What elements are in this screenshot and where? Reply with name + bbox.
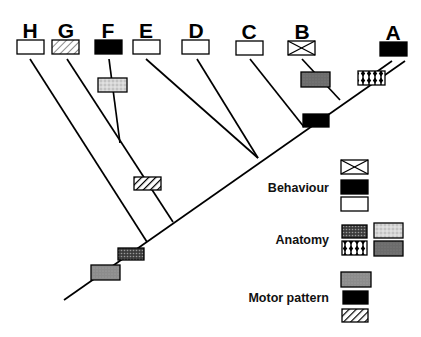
legend-motor-medgray — [341, 272, 371, 287]
legend-label-motor-pattern: Motor pattern — [248, 291, 329, 305]
box-f-black — [95, 40, 122, 54]
box-ab-black — [303, 114, 329, 127]
box-g-hatch — [52, 40, 79, 54]
branch-d — [197, 59, 258, 158]
legend-anatomy-darkgray — [374, 241, 403, 256]
legend-anatomy-lightstipple — [374, 223, 403, 238]
legend-swatches — [341, 160, 403, 322]
legend-behaviour-open — [341, 197, 368, 211]
branch-h — [30, 59, 147, 242]
cladogram-svg — [0, 0, 421, 337]
taxon-label-d: D — [181, 20, 211, 41]
box-b-darkgray — [301, 72, 330, 87]
box-h-open — [17, 40, 44, 54]
box-gf-hatch — [134, 177, 161, 190]
terminal-boxes — [17, 40, 407, 56]
legend-label-anatomy: Anatomy — [276, 233, 329, 247]
branch-e — [146, 59, 258, 158]
box-e-open — [133, 40, 160, 54]
legend-motor-hatch — [342, 309, 368, 322]
taxon-label-a: A — [378, 22, 408, 43]
box-b-cross — [288, 41, 315, 55]
box-d-open — [182, 40, 209, 54]
cladogram-figure: H G F E D C B A Behaviour Anatomy Motor … — [0, 0, 421, 337]
taxon-label-e: E — [131, 20, 161, 41]
box-trunk-medgray — [91, 265, 120, 280]
taxon-label-h: H — [15, 20, 45, 41]
taxon-label-c: C — [234, 21, 264, 42]
legend-behaviour-cross — [341, 160, 368, 174]
box-trunk-darkstipple — [118, 248, 144, 260]
legend-anatomy-diamond — [342, 241, 367, 255]
branch-f — [109, 59, 120, 143]
legend-label-behaviour: Behaviour — [268, 181, 329, 195]
branch-c — [250, 59, 304, 127]
taxon-label-f: F — [93, 20, 123, 41]
box-a-diamond — [358, 71, 385, 85]
box-a-black — [380, 42, 407, 56]
legend-behaviour-black — [341, 180, 368, 194]
branch-boxes — [91, 71, 385, 280]
legend-motor-black — [343, 291, 368, 304]
taxon-label-b: B — [287, 21, 317, 42]
taxon-label-g: G — [51, 20, 81, 41]
box-c-open — [236, 41, 263, 55]
box-f-stipple — [98, 78, 127, 92]
legend-anatomy-darkstipple — [342, 225, 367, 238]
